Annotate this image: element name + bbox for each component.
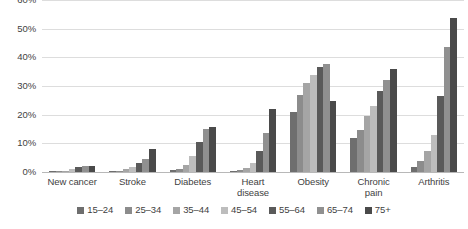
- bar-group: [343, 0, 403, 172]
- legend-item[interactable]: 75+: [365, 205, 391, 215]
- bar: [437, 96, 444, 172]
- y-axis-tick-label: 50%: [17, 24, 36, 34]
- y-axis-tick-label: 20%: [17, 110, 36, 120]
- legend-item-label: 45–54: [231, 205, 257, 215]
- bar: [136, 163, 143, 172]
- legend-item[interactable]: 25–34: [125, 205, 161, 215]
- x-axis-category-line: Arthritis: [404, 176, 464, 187]
- bar: [383, 80, 390, 172]
- bar: [149, 149, 156, 173]
- y-axis-tick-label: 0%: [22, 167, 36, 177]
- bar: [256, 151, 263, 173]
- bar: [424, 151, 431, 173]
- legend-item[interactable]: 65–74: [317, 205, 353, 215]
- legend-swatch-icon: [221, 207, 228, 214]
- legend-swatch-icon: [269, 207, 276, 214]
- bar: [123, 169, 130, 172]
- bar: [129, 167, 136, 172]
- bar: [56, 171, 63, 172]
- bar: [49, 171, 56, 172]
- y-axis-tick-label: 60%: [17, 0, 36, 5]
- y-axis-tick-label: 10%: [17, 139, 36, 149]
- legend-item[interactable]: 35–44: [173, 205, 209, 215]
- bar: [370, 106, 377, 172]
- y-axis-tick-label: 40%: [17, 53, 36, 63]
- bar: [250, 163, 257, 172]
- x-axis-category-label: Arthritis: [404, 173, 464, 199]
- y-axis-tick-label: 30%: [17, 81, 36, 91]
- x-axis-category-label: Chronicpain: [343, 173, 403, 199]
- bar: [203, 129, 210, 172]
- legend-item-label: 15–24: [87, 205, 113, 215]
- legend-item[interactable]: 55–64: [269, 205, 305, 215]
- x-axis-category-line: disease: [223, 187, 283, 198]
- bar: [323, 64, 330, 172]
- bar: [237, 170, 244, 172]
- x-axis-category-line: pain: [343, 187, 403, 198]
- bar-group: [102, 0, 162, 172]
- bar: [176, 169, 183, 172]
- bar-groups: [42, 0, 464, 172]
- bar: [82, 166, 89, 172]
- bar: [317, 67, 324, 172]
- bar: [183, 165, 190, 172]
- bar: [189, 156, 196, 172]
- bar: [417, 161, 424, 172]
- legend-item-label: 55–64: [279, 205, 305, 215]
- x-axis-category-line: Stroke: [102, 176, 162, 187]
- bar-group: [163, 0, 223, 172]
- bar: [297, 95, 304, 172]
- legend-item-label: 65–74: [327, 205, 353, 215]
- legend-item-label: 25–34: [135, 205, 161, 215]
- plot-area: 0%10%20%30%40%50%60%: [0, 0, 468, 172]
- bar: [89, 166, 96, 172]
- bar: [142, 159, 149, 172]
- bar: [75, 167, 82, 172]
- bar-group: [42, 0, 102, 172]
- x-axis-labels: New cancerStrokeDiabetesHeartdiseaseObes…: [42, 173, 464, 199]
- bar-group: [223, 0, 283, 172]
- bar: [303, 83, 310, 172]
- bar: [209, 127, 216, 172]
- bar-group: [404, 0, 464, 172]
- legend-item-label: 75+: [375, 205, 391, 215]
- legend-swatch-icon: [317, 207, 324, 214]
- bar: [411, 167, 418, 172]
- legend: 15–2425–3435–4445–5455–6465–7475+: [0, 202, 468, 218]
- x-axis-category-line: New cancer: [42, 176, 102, 187]
- x-axis-category-line: Heart: [223, 176, 283, 187]
- bar: [390, 69, 397, 172]
- bar: [263, 133, 270, 172]
- bar: [69, 169, 76, 172]
- bar: [196, 142, 203, 172]
- bar: [310, 75, 317, 172]
- bar: [243, 168, 250, 172]
- legend-item-label: 35–44: [183, 205, 209, 215]
- bar: [450, 18, 457, 172]
- x-axis-category-label: Stroke: [102, 173, 162, 199]
- bar: [364, 116, 371, 172]
- bar: [357, 130, 364, 172]
- legend-item[interactable]: 45–54: [221, 205, 257, 215]
- legend-swatch-icon: [365, 207, 372, 214]
- bar: [109, 171, 116, 172]
- legend-swatch-icon: [173, 207, 180, 214]
- bar-group: [283, 0, 343, 172]
- bar: [170, 170, 177, 172]
- bar: [330, 101, 337, 172]
- bar: [230, 171, 237, 172]
- bar-chart: 0%10%20%30%40%50%60% New cancerStrokeDia…: [0, 0, 468, 229]
- x-axis-category-line: Chronic: [343, 176, 403, 187]
- x-axis-category-label: New cancer: [42, 173, 102, 199]
- x-axis-category-line: Diabetes: [163, 176, 223, 187]
- bar: [431, 135, 438, 172]
- x-axis-category-label: Diabetes: [163, 173, 223, 199]
- bar: [377, 91, 384, 172]
- legend-swatch-icon: [77, 207, 84, 214]
- y-axis: 0%10%20%30%40%50%60%: [0, 0, 42, 172]
- bar: [444, 47, 451, 172]
- legend-item[interactable]: 15–24: [77, 205, 113, 215]
- x-axis-category-line: Obesity: [283, 176, 343, 187]
- legend-swatch-icon: [125, 207, 132, 214]
- bar: [116, 171, 123, 172]
